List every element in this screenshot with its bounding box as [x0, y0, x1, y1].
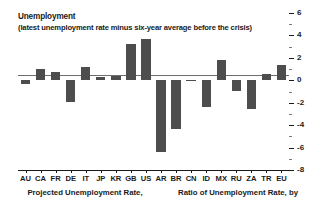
- x-tick: [221, 170, 222, 173]
- y-tick-minor: [289, 92, 292, 93]
- y-tick-minor: [289, 47, 292, 48]
- x-tick: [281, 170, 282, 173]
- x-tick-label-za: ZA: [246, 174, 256, 184]
- x-tick-label-kr: KR: [110, 174, 121, 184]
- x-axis-labels: AUCAFRDEITJPKRGBUSARBRCNIDMXRUZATREU: [18, 174, 289, 185]
- bar-kr: [111, 76, 120, 80]
- x-tick: [191, 170, 192, 173]
- y-axis-right: 6420-2-4-6-8: [289, 0, 322, 202]
- x-tick: [161, 170, 162, 173]
- bar-it: [81, 67, 90, 80]
- bar-ar: [156, 80, 165, 152]
- y-tick-major: [289, 148, 294, 149]
- y-tick-major: [289, 80, 294, 81]
- bar-tr: [262, 74, 271, 81]
- y-tick-minor: [289, 69, 292, 70]
- x-tick: [56, 170, 57, 173]
- caption-1: Projected Unemployment Rate,: [27, 188, 142, 198]
- bar-jp: [96, 77, 105, 80]
- bar-id: [202, 80, 211, 107]
- x-tick-label-mx: MX: [216, 174, 227, 184]
- y-tick-minor: [289, 136, 292, 137]
- bar-za: [247, 80, 256, 109]
- x-tick-label-ar: AR: [156, 174, 167, 184]
- bar-cn: [186, 80, 195, 81]
- bar-us: [141, 39, 150, 80]
- y-tick-minor: [289, 159, 292, 160]
- unemployment-bar-chart-figure: Unemployment (latest unemployment rate m…: [0, 0, 322, 202]
- bar-gb: [126, 44, 135, 80]
- y-tick-major: [289, 35, 294, 36]
- y-tick-major: [289, 170, 294, 171]
- y-tick-major: [289, 125, 294, 126]
- x-tick: [41, 170, 42, 173]
- x-tick: [266, 170, 267, 173]
- x-tick: [86, 170, 87, 173]
- y-tick-label: -4: [297, 121, 304, 129]
- caption-2: Ratio of Unemployment Rate, by: [178, 188, 298, 198]
- x-tick-label-ca: CA: [35, 174, 46, 184]
- y-tick-major: [289, 58, 294, 59]
- y-tick-major: [289, 13, 294, 14]
- x-tick: [236, 170, 237, 173]
- x-tick-label-tr: TR: [261, 174, 271, 184]
- x-tick: [131, 170, 132, 173]
- x-tick-label-ru: RU: [231, 174, 242, 184]
- x-tick-label-us: US: [141, 174, 152, 184]
- y-tick-label: -6: [297, 144, 304, 152]
- x-tick-label-cn: CN: [186, 174, 197, 184]
- bar-br: [171, 80, 180, 128]
- x-tick: [251, 170, 252, 173]
- y-tick-label: -2: [297, 99, 304, 107]
- x-tick-label-br: BR: [171, 174, 182, 184]
- x-tick: [206, 170, 207, 173]
- x-tick: [176, 170, 177, 173]
- x-tick-label-jp: JP: [96, 174, 105, 184]
- x-tick: [71, 170, 72, 173]
- bar-ca: [36, 69, 45, 80]
- x-tick-label-de: DE: [65, 174, 76, 184]
- y-tick-major: [289, 103, 294, 104]
- bar-fr: [51, 72, 60, 80]
- y-tick-label: 4: [297, 31, 301, 39]
- x-tick-label-it: IT: [82, 174, 89, 184]
- x-tick-label-fr: FR: [51, 174, 61, 184]
- x-tick: [146, 170, 147, 173]
- y-tick-label: 0: [297, 76, 301, 84]
- x-tick-label-id: ID: [202, 174, 210, 184]
- y-tick-label: -8: [297, 166, 304, 174]
- bar-mx: [217, 60, 226, 80]
- bar-de: [66, 80, 75, 101]
- x-tick-label-gb: GB: [125, 174, 136, 184]
- bar-ru: [232, 80, 241, 91]
- x-tick: [26, 170, 27, 173]
- y-tick-minor: [289, 114, 292, 115]
- x-tick-label-eu: EU: [276, 174, 287, 184]
- y-tick-label: 6: [297, 9, 301, 17]
- bar-eu: [277, 65, 286, 81]
- caption-row: Projected Unemployment Rate,Ratio of Une…: [0, 188, 322, 202]
- y-tick-label: 2: [297, 54, 301, 62]
- bar-series: [18, 13, 289, 170]
- x-tick: [101, 170, 102, 173]
- x-tick: [116, 170, 117, 173]
- plot-area: [18, 13, 289, 170]
- y-tick-minor: [289, 24, 292, 25]
- x-tick-label-au: AU: [20, 174, 31, 184]
- bar-au: [21, 80, 30, 83]
